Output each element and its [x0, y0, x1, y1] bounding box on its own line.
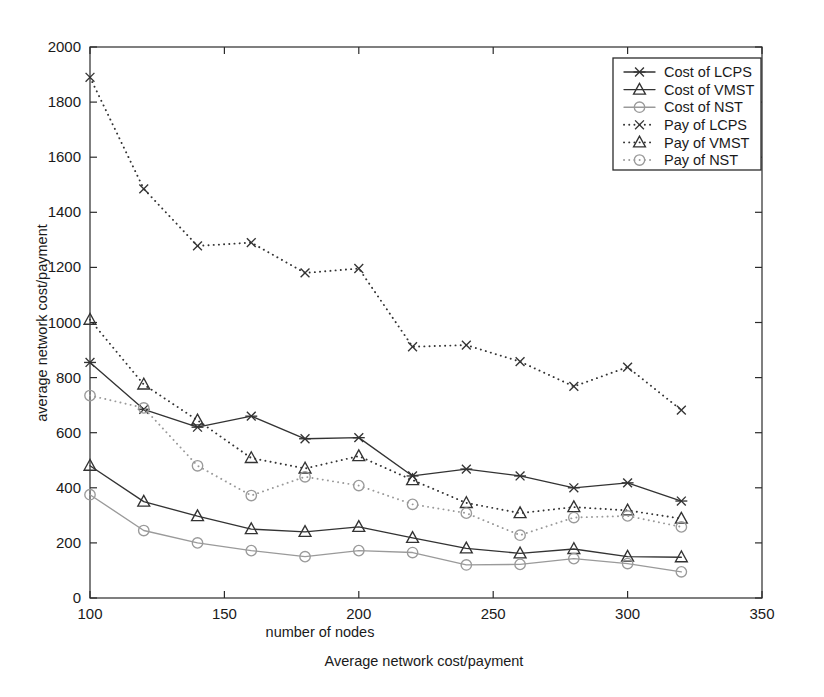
- data-point-x-bar: [460, 465, 472, 474]
- legend-item-label: Cost of NST: [664, 99, 743, 115]
- y-tick-label: 800: [56, 369, 81, 386]
- data-point-triangle: [353, 450, 365, 461]
- series-pay-of-nst: [85, 390, 687, 540]
- series-layer: [84, 73, 687, 577]
- series-pay-of-vmst: [84, 313, 687, 523]
- series-line: [90, 466, 681, 557]
- x-axis-title: number of nodes: [266, 624, 375, 640]
- x-tick-label: 300: [615, 605, 640, 622]
- data-point-x: [462, 341, 471, 350]
- data-point-triangle: [568, 543, 580, 554]
- legend-item-label: Pay of LCPS: [664, 117, 747, 133]
- data-point-x: [193, 241, 202, 250]
- data-point-circle: [569, 512, 579, 522]
- data-point-x: [677, 406, 686, 415]
- data-point-x: [139, 184, 148, 193]
- legend-item-label: Pay of NST: [664, 152, 738, 168]
- series-cost-of-nst: [85, 489, 687, 577]
- x-tick-label: 350: [749, 605, 774, 622]
- data-point-circle: [192, 461, 202, 471]
- data-point-x-bar: [622, 478, 634, 487]
- y-axis-title: average network cost/payment: [34, 224, 50, 421]
- series-line: [90, 495, 681, 572]
- y-tick-label: 0: [73, 589, 81, 606]
- data-point-circle: [461, 508, 471, 518]
- figure-container: 0200400600800100012001400160018002000 10…: [0, 0, 824, 697]
- data-point-circle: [246, 490, 256, 500]
- data-point-x-bar: [192, 423, 204, 432]
- data-point-x-bar: [245, 412, 257, 421]
- data-point-triangle: [675, 551, 687, 562]
- series-cost-of-vmst: [84, 460, 687, 562]
- data-point-triangle: [138, 495, 150, 506]
- y-tick-label: 200: [56, 534, 81, 551]
- data-point-x: [247, 238, 256, 247]
- data-point-x-bar: [675, 497, 687, 506]
- data-point-x: [408, 342, 417, 351]
- series-cost-of-lcps: [84, 358, 687, 505]
- y-tick-label: 400: [56, 479, 81, 496]
- x-tick-label: 200: [346, 605, 371, 622]
- x-tick-label: 100: [77, 605, 102, 622]
- figure-caption: Average network cost/payment: [325, 653, 524, 669]
- y-tick-label: 1600: [48, 148, 81, 165]
- data-point-triangle: [460, 497, 472, 508]
- data-point-x: [623, 363, 632, 372]
- data-point-x-bar: [514, 472, 526, 481]
- y-tick-label: 1800: [48, 93, 81, 110]
- chart-legend[interactable]: Cost of LCPSCost of VMSTCost of NSTPay o…: [613, 58, 761, 170]
- data-point-triangle: [245, 452, 257, 463]
- y-tick-label: 1400: [48, 203, 81, 220]
- series-line: [90, 362, 681, 501]
- series-line: [90, 320, 681, 519]
- series-pay-of-lcps: [86, 73, 686, 415]
- x-tick-label: 150: [212, 605, 237, 622]
- data-point-x: [569, 382, 578, 391]
- y-tick-label: 600: [56, 424, 81, 441]
- data-point-x: [301, 268, 310, 277]
- data-point-triangle: [353, 521, 365, 532]
- series-line: [90, 396, 681, 536]
- data-point-triangle: [568, 501, 580, 512]
- series-line: [90, 77, 681, 410]
- data-point-circle: [515, 530, 525, 540]
- chart-canvas: 0200400600800100012001400160018002000 10…: [0, 0, 824, 697]
- y-tick-label: 1200: [48, 258, 81, 275]
- y-tick-label: 1000: [48, 314, 81, 331]
- x-tick-label: 250: [481, 605, 506, 622]
- data-point-x: [516, 357, 525, 366]
- y-tick-label: 2000: [48, 38, 81, 55]
- legend-item-label: Cost of LCPS: [664, 64, 752, 80]
- legend-item-label: Pay of VMST: [664, 135, 750, 151]
- data-point-x-bar: [299, 434, 311, 443]
- legend-item-label: Cost of VMST: [664, 82, 754, 98]
- data-point-x-bar: [568, 483, 580, 492]
- data-point-triangle: [514, 507, 526, 518]
